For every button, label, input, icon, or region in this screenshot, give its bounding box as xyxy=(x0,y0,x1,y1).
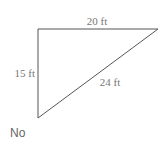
right-triangle xyxy=(38,29,158,118)
answer-text: No xyxy=(10,126,25,140)
side-label-hypotenuse: 24 ft xyxy=(100,76,120,88)
side-label-top: 20 ft xyxy=(87,15,107,27)
side-label-left: 15 ft xyxy=(15,67,35,79)
